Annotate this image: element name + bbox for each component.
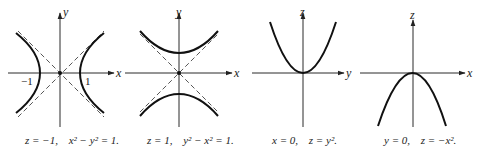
y-axis-label: y (62, 5, 69, 19)
caption: y = 0, z = −x². (383, 134, 456, 146)
x-axis-label: x (115, 66, 122, 80)
z-axis-label: z (299, 5, 305, 19)
panel-parabola-down: x z y = 0, z = −x². (360, 8, 473, 146)
caption: x = 0, z = y². (271, 134, 337, 146)
caption-equation: z = −x². (420, 134, 457, 146)
caption-condition: x = 0, (271, 134, 298, 146)
z-axis-label: z (409, 8, 415, 22)
panel-parabola-up: y z x = 0, z = y². (252, 5, 352, 146)
tick-label-1: 1 (85, 75, 91, 87)
caption: z = −1, x² − y² = 1. (24, 134, 119, 146)
caption-equation: x² − y² = 1. (68, 134, 119, 146)
caption-condition: z = 1, (146, 134, 173, 146)
caption-condition: z = −1, (24, 134, 58, 146)
tick-label-neg1: −1 (21, 75, 33, 87)
caption-equation: y² − x² = 1. (182, 134, 233, 146)
figure-canvas: x y −1 1 z = −1, x² − y² = 1. x y z = 1,… (0, 0, 483, 150)
y-axis-label: y (175, 5, 182, 19)
parabola-curve (378, 73, 446, 126)
caption-equation: z = y². (308, 134, 337, 146)
caption: z = 1, y² − x² = 1. (146, 134, 234, 146)
caption-condition: y = 0, (383, 134, 410, 146)
y-axis-label: y (345, 66, 352, 80)
x-axis-label: x (466, 66, 473, 80)
x-axis-label: x (233, 66, 240, 80)
origin-dot (58, 71, 62, 75)
panel-hyperbola-x: x y −1 1 z = −1, x² − y² = 1. (8, 5, 122, 146)
origin-dot (177, 71, 181, 75)
panel-hyperbola-y: x y z = 1, y² − x² = 1. (125, 5, 240, 146)
